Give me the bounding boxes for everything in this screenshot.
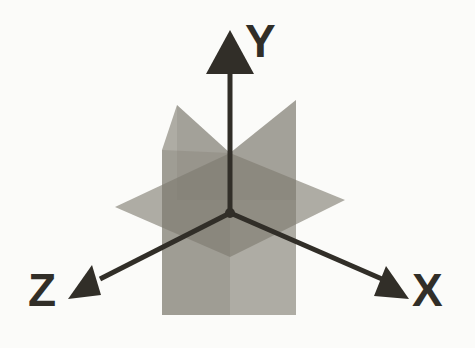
origin-point (225, 208, 235, 218)
left-plane-upper-fin (177, 105, 230, 200)
x-axis-arrowhead (374, 266, 409, 299)
z-axis-arrowhead (68, 265, 101, 299)
y-axis-label: Y (245, 18, 276, 64)
axes-and-planes-canvas (0, 0, 475, 348)
right-plane-upper-fin (230, 100, 296, 200)
x-axis-label: X (412, 267, 443, 313)
z-axis-label: Z (28, 267, 56, 313)
coordinate-system-diagram: Y X Z (0, 0, 475, 348)
